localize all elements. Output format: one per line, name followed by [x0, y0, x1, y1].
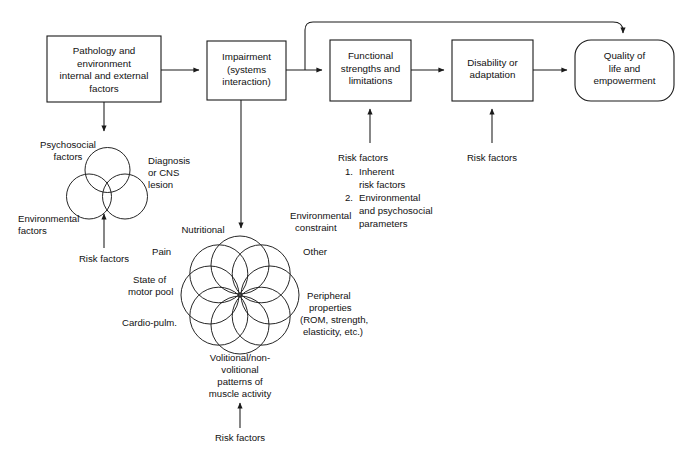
- rosette-label-peripheral-line-3: (ROM, strength,: [300, 314, 368, 325]
- rosette-label-nutritional: Nutritional: [181, 224, 224, 235]
- rosette-circle-nw: [190, 245, 248, 303]
- rosette-label-env-constraint-line-1: Environmental: [290, 210, 351, 221]
- rosette-label-volitional-line-2: volitional: [221, 364, 258, 375]
- functional-risk-item-2-line-3: parameters: [359, 218, 408, 229]
- functional-risk-item-1-line-2: risk factors: [359, 179, 406, 190]
- venn-label-diagnosis-line-1: Diagnosis: [148, 155, 190, 166]
- rosette-label-env-constraint-line-2: constraint: [295, 222, 337, 233]
- box-disability-line-2: adaptation: [470, 69, 516, 80]
- box-pathology-line-1: Pathology and: [73, 45, 136, 56]
- venn-circle-bottom-right: [103, 174, 148, 219]
- rosette-label-risk-factors: Risk factors: [215, 432, 265, 443]
- box-disability-line-1: Disability or: [467, 57, 518, 68]
- box-pathology-line-3: internal and external: [60, 70, 149, 81]
- box-functional-line-2: strengths and: [341, 63, 400, 74]
- box-functional-line-1: Functional: [348, 50, 393, 61]
- functional-risk-item-1-line-1: Inherent: [359, 166, 395, 177]
- box-impairment-line-2: (systems: [227, 64, 266, 75]
- rosette-label-pain: Pain: [152, 246, 171, 257]
- venn-label-environmental-line-1: Environmental: [18, 213, 79, 224]
- venn-label-diagnosis-line-2: or CNS: [148, 167, 179, 178]
- box-pathology-line-4: factors: [89, 83, 119, 94]
- rosette-label-other: Other: [303, 246, 328, 257]
- rosette-label-volitional-line-4: muscle activity: [209, 388, 272, 399]
- disability-risk-label: Risk factors: [467, 152, 517, 163]
- venn-label-psychosocial-line-2: factors: [54, 151, 83, 162]
- venn-circle-top: [85, 148, 130, 193]
- functional-risk-item-1-num: 1.: [345, 166, 353, 177]
- box-quality-line-1: Quality of: [604, 50, 646, 61]
- rosette-label-volitional-line-3: patterns of: [217, 376, 263, 387]
- functional-risk-item-2-line-2: and psychosocial: [359, 205, 433, 216]
- venn-label-environmental-line-2: factors: [18, 225, 47, 236]
- rosette-circles: [181, 236, 299, 354]
- venn-label-psychosocial-line-1: Psychosocial: [40, 139, 96, 150]
- functional-risk-item-2-num: 2.: [345, 192, 353, 203]
- functional-risk-heading: Risk factors: [338, 152, 388, 163]
- rosette-label-peripheral-line-4: elasticity, etc.): [303, 326, 363, 337]
- box-impairment-line-1: Impairment: [222, 51, 271, 62]
- flow-diagram-canvas: Pathology and environment internal and e…: [0, 0, 693, 458]
- rosette-label-volitional-line-1: Volitional/non-: [210, 352, 270, 363]
- disablement-model-diagram: Pathology and environment internal and e…: [0, 0, 693, 458]
- box-quality-line-3: empowerment: [593, 75, 655, 86]
- rosette-label-peripheral-line-1: Peripheral: [307, 290, 351, 301]
- venn-label-risk-factors: Risk factors: [79, 253, 129, 264]
- venn-label-diagnosis-line-3: lesion: [148, 179, 173, 190]
- box-quality-line-2: life and: [609, 63, 641, 74]
- rosette-label-motor-pool-line-1: State of: [133, 274, 166, 285]
- rosette-label-motor-pool-line-2: motor pool: [128, 286, 173, 297]
- box-pathology-line-2: environment: [77, 58, 131, 69]
- functional-risk-item-2-line-1: Environmental: [359, 192, 420, 203]
- box-functional-line-3: limitations: [349, 75, 393, 86]
- rosette-label-cardio: Cardio-pulm.: [122, 317, 177, 328]
- rosette-label-peripheral-line-2: properties: [309, 302, 352, 313]
- box-impairment-line-3: interaction): [222, 76, 270, 87]
